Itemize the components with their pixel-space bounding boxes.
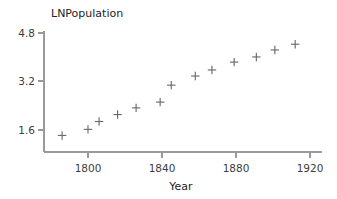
y-tick-label-1-6: 1.6 (18, 124, 35, 136)
data-point-marker (230, 58, 238, 66)
scatter-plot: LNPopulation 4.8 3.2 1.6 1800 1840 1880 … (0, 0, 337, 199)
y-tick-label-3-2: 3.2 (18, 75, 35, 87)
x-tick-label-1920: 1920 (297, 162, 324, 174)
data-point-marker (208, 66, 216, 74)
plot-title: LNPopulation (51, 7, 123, 20)
data-point-marker (167, 81, 175, 89)
y-tick-label-4-8: 4.8 (18, 27, 35, 39)
x-axis-title: Year (168, 180, 193, 193)
data-point-marker (84, 125, 92, 133)
data-point-marker (156, 98, 164, 106)
x-tick-label-1880: 1880 (223, 162, 250, 174)
x-tick-label-1800: 1800 (75, 162, 102, 174)
x-tick-label-1840: 1840 (149, 162, 176, 174)
data-point-marker (252, 53, 260, 61)
chart-screenshot: LNPopulation 4.8 3.2 1.6 1800 1840 1880 … (0, 0, 337, 199)
data-point-marker (58, 131, 66, 139)
data-point-marker (191, 72, 199, 80)
data-point-marker (113, 110, 121, 118)
data-point-marker (132, 104, 140, 112)
data-point-marker (291, 40, 299, 48)
data-point-group (58, 40, 300, 140)
data-point-marker (95, 117, 103, 125)
data-point-marker (271, 46, 279, 54)
